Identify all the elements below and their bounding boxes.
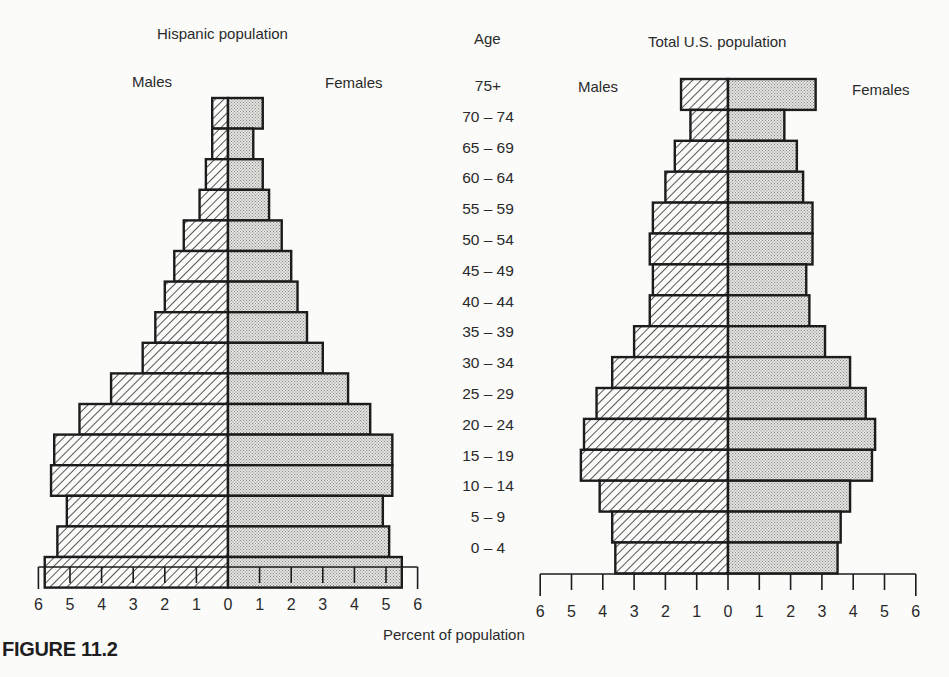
male-bar	[51, 465, 228, 496]
x-tick-label: 3	[630, 603, 639, 620]
female-bar	[728, 141, 797, 172]
x-tick-label: 3	[817, 603, 826, 620]
female-bar	[228, 190, 269, 221]
hispanic-pyramid: 6543210123456	[34, 98, 422, 613]
female-bar	[228, 220, 282, 251]
x-tick-label: 3	[129, 596, 138, 613]
male-bar	[681, 79, 728, 110]
male-bar	[79, 404, 228, 435]
female-bar	[228, 435, 392, 466]
male-bar	[615, 543, 728, 574]
x-tick-label: 6	[34, 596, 43, 613]
female-bar	[228, 159, 263, 190]
female-bar	[228, 251, 291, 282]
x-tick-label: 2	[661, 603, 670, 620]
x-tick-label: 6	[536, 603, 545, 620]
male-bar	[200, 190, 228, 221]
male-bar	[612, 357, 728, 388]
female-bar	[228, 404, 370, 435]
female-bar	[228, 496, 383, 527]
female-bar	[728, 512, 841, 543]
male-bar	[650, 234, 728, 265]
female-bar	[728, 264, 806, 295]
female-bar	[228, 282, 298, 313]
female-bar	[228, 373, 348, 404]
male-bar	[184, 220, 228, 251]
female-bar	[728, 419, 875, 450]
female-bar	[728, 543, 838, 574]
male-bar	[653, 203, 728, 234]
male-bar	[675, 141, 728, 172]
male-bar	[650, 295, 728, 326]
female-bar	[228, 526, 389, 557]
male-bar	[653, 264, 728, 295]
x-tick-label: 3	[318, 596, 327, 613]
x-tick-label: 4	[849, 603, 858, 620]
x-tick-label: 1	[255, 596, 264, 613]
male-bar	[67, 496, 228, 527]
female-bar	[728, 234, 813, 265]
female-bar	[728, 357, 850, 388]
x-tick-label: 1	[755, 603, 764, 620]
male-bar	[665, 172, 728, 203]
x-tick-label: 6	[413, 596, 422, 613]
female-bar	[228, 312, 307, 343]
female-bar	[728, 481, 850, 512]
male-bar	[165, 282, 228, 313]
x-tick-label: 4	[97, 596, 106, 613]
x-tick-label: 2	[786, 603, 795, 620]
female-bar	[228, 557, 402, 588]
male-bar	[584, 419, 728, 450]
male-bar	[690, 110, 728, 141]
x-tick-label: 6	[911, 603, 920, 620]
male-bar	[54, 435, 228, 466]
x-tick-label: 1	[692, 603, 701, 620]
population-pyramids: 6543210123456 6543210123456	[0, 0, 949, 677]
male-bar	[45, 557, 228, 588]
female-bar	[728, 172, 803, 203]
male-bar	[155, 312, 228, 343]
female-bar	[728, 326, 825, 357]
male-bar	[581, 450, 728, 481]
male-bar	[174, 251, 228, 282]
male-bar	[597, 388, 728, 419]
female-bar	[228, 343, 323, 374]
x-tick-label: 5	[66, 596, 75, 613]
male-bar	[634, 326, 728, 357]
male-bar	[206, 159, 228, 190]
male-bar	[600, 481, 728, 512]
female-bar	[728, 295, 809, 326]
x-tick-label: 0	[224, 596, 233, 613]
x-tick-label: 0	[724, 603, 733, 620]
female-bar	[728, 203, 813, 234]
female-bar	[728, 388, 866, 419]
x-tick-label: 4	[598, 603, 607, 620]
x-tick-label: 5	[567, 603, 576, 620]
x-tick-label: 5	[880, 603, 889, 620]
x-tick-label: 4	[350, 596, 359, 613]
us-pyramid: 6543210123456	[536, 79, 921, 620]
x-tick-label: 1	[192, 596, 201, 613]
male-bar	[111, 373, 228, 404]
male-bar	[212, 98, 228, 129]
female-bar	[728, 79, 816, 110]
male-bar	[212, 129, 228, 160]
male-bar	[612, 512, 728, 543]
male-bar	[143, 343, 228, 374]
female-bar	[728, 110, 784, 141]
female-bar	[228, 465, 392, 496]
female-bar	[228, 98, 263, 129]
x-tick-label: 5	[382, 596, 391, 613]
female-bar	[728, 450, 872, 481]
male-bar	[57, 526, 228, 557]
x-tick-label: 2	[160, 596, 169, 613]
female-bar	[228, 129, 253, 160]
x-tick-label: 2	[287, 596, 296, 613]
